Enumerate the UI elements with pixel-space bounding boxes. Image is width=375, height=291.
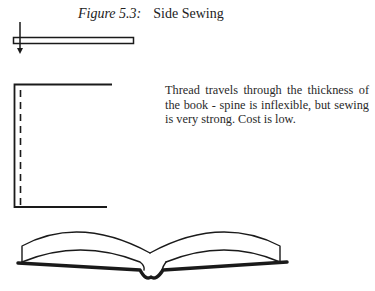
top-view-diagram [14,22,134,54]
book-block-outline [15,85,113,208]
figure-illustrations [0,0,375,291]
side-view-diagram [15,85,113,208]
right-page-top [150,232,280,262]
arrow-down-icon [17,48,23,54]
book-bar [14,38,134,44]
figure-description: Thread travels through the thickness of … [165,83,369,127]
book-cover-base [18,262,287,278]
left-page-top [22,232,150,262]
right-page-inner [166,250,280,262]
open-book-diagram [18,232,287,278]
